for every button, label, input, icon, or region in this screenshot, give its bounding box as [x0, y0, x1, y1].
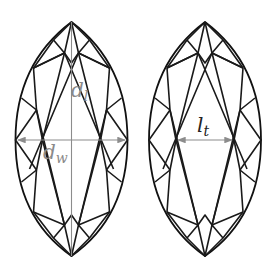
right-marquise-gem	[149, 22, 261, 256]
length-label: dl	[71, 80, 88, 103]
marquise-diagram: dl dw lt	[0, 0, 278, 274]
width-label: dw	[43, 142, 68, 165]
table-length-label: lt	[197, 115, 209, 138]
diagram-canvas	[0, 0, 278, 274]
